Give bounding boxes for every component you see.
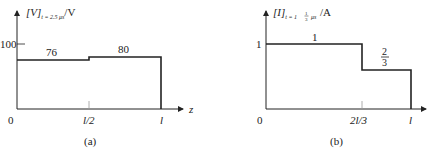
x-tick-label-l-b: l <box>409 114 412 126</box>
segment-label-1: 1 <box>312 31 318 43</box>
x-tick-label-half: l/2 <box>83 114 95 126</box>
caption-a: (a) <box>84 135 97 148</box>
y-axis-label-b-unit: /A <box>320 6 331 18</box>
y-axis-label-b-frac-den: 3 <box>305 17 308 22</box>
y-axis-label-b: [I]t = 1 <box>273 6 297 20</box>
segment-label-2-3-den: 3 <box>382 57 387 68</box>
y-tick-label-100: 100 <box>0 38 17 50</box>
x-axis-label-z: z <box>188 103 194 115</box>
chart-b: 1 0 2l/3 l [I]t = 1 1 3 μs /A 1 2 3 (b) <box>256 6 426 148</box>
segment-label-76: 76 <box>46 46 58 58</box>
y-axis-label-a: [V]t = 2.5 μs/V <box>26 6 75 20</box>
segment-label-80: 80 <box>118 43 130 55</box>
segment-label-2-3-num: 2 <box>382 46 387 57</box>
figure-canvas: 100 0 l/2 l z [V]t = 2.5 μs/V 76 80 (a) … <box>0 0 427 152</box>
chart-a: 100 0 l/2 l z [V]t = 2.5 μs/V 76 80 (a) <box>0 6 194 148</box>
y-axis-label-b-frac-num: 1 <box>305 11 308 16</box>
y-axis-label-b-unit-us: μs <box>311 14 317 20</box>
x-tick-label-2l3: 2l/3 <box>350 114 368 126</box>
origin-label-b: 0 <box>257 114 263 126</box>
x-tick-label-l-a: l <box>160 114 163 126</box>
step-line-b <box>266 44 411 109</box>
y-tick-label-1: 1 <box>256 38 262 50</box>
origin-label-a: 0 <box>8 114 14 126</box>
caption-b: (b) <box>330 135 343 148</box>
